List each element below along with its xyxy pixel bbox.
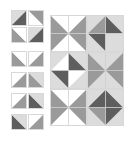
small-tile-10: [28, 93, 44, 109]
big-tile-3: [50, 52, 87, 89]
small-tile-11: [11, 114, 27, 130]
small-tile-2: [28, 10, 44, 26]
small-tile-9: [11, 93, 27, 109]
small-tile-12: [28, 114, 44, 130]
small-tile-6: [28, 51, 44, 67]
big-tile-2: [87, 15, 124, 52]
big-tile-4: [87, 52, 124, 89]
big-tile-6: [87, 89, 124, 126]
small-tile-5: [11, 51, 27, 67]
small-tile-1: [11, 10, 27, 26]
small-tile-8: [28, 72, 44, 88]
small-tile-7: [11, 72, 27, 88]
big-tile-5: [50, 89, 87, 126]
big-tile-1: [50, 15, 87, 52]
small-tile-3: [11, 27, 27, 43]
small-tile-4: [28, 27, 44, 43]
